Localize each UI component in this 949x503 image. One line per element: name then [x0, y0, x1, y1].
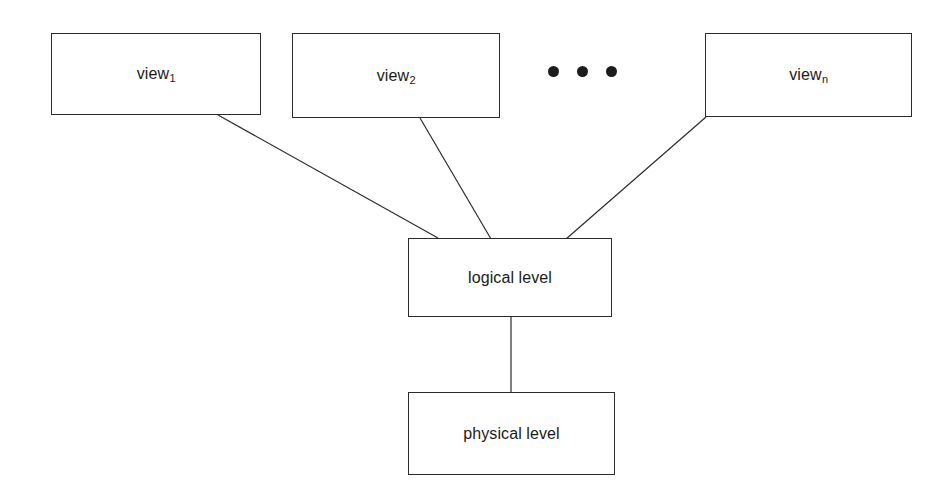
node-logical-level-label: logical level: [468, 270, 552, 286]
node-physical-level-label: physical level: [463, 426, 560, 442]
ellipsis-dot-1: [548, 66, 559, 77]
node-view1-label: view1: [137, 66, 176, 82]
node-view1-subscript: 1: [170, 72, 176, 84]
edge-viewn-to-logical: [566, 117, 706, 239]
ellipsis-dot-3: [606, 66, 617, 77]
ellipsis-dot-2: [577, 66, 588, 77]
node-viewn[interactable]: viewn: [705, 33, 912, 117]
node-view2-label: view2: [377, 68, 416, 84]
node-physical-level[interactable]: physical level: [408, 392, 615, 475]
node-view2-subscript: 2: [410, 74, 416, 86]
node-view2[interactable]: view2: [292, 33, 500, 118]
edge-view1-to-logical: [218, 115, 438, 238]
node-viewn-subscript: n: [822, 73, 828, 85]
node-view1[interactable]: view1: [51, 33, 261, 115]
ellipsis-icon: [548, 66, 617, 77]
node-logical-level[interactable]: logical level: [408, 238, 612, 317]
node-viewn-label: viewn: [789, 67, 828, 83]
diagram-canvas: view1 view2 viewn logical level physical…: [0, 0, 949, 503]
edge-view2-to-logical: [420, 118, 491, 239]
